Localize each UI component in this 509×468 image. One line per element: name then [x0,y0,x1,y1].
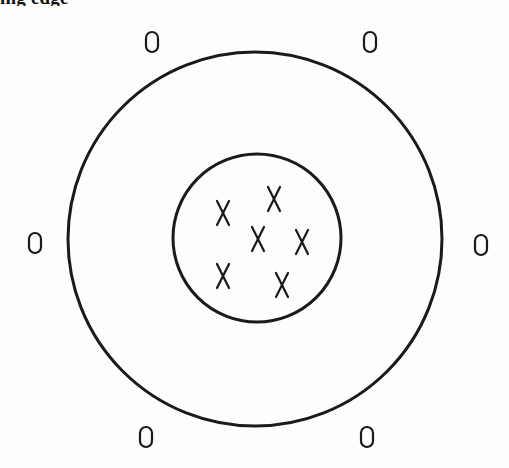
x-mark-icon [276,273,288,297]
o-mark-icon [146,32,158,52]
o-mark-icon [29,233,41,253]
o-mark-icon [140,427,152,447]
page: ing edge [0,0,509,468]
concentric-circles-diagram [0,0,509,468]
x-mark-icon [296,230,308,254]
o-mark-icon [361,427,373,447]
x-mark-icon [217,264,229,288]
x-mark-icon [268,187,280,211]
x-mark-icon [217,201,229,225]
outer-circle [68,52,442,426]
x-marks-group [217,187,308,297]
x-mark-icon [252,227,264,251]
o-mark-icon [475,235,487,255]
o-mark-icon [364,32,376,52]
